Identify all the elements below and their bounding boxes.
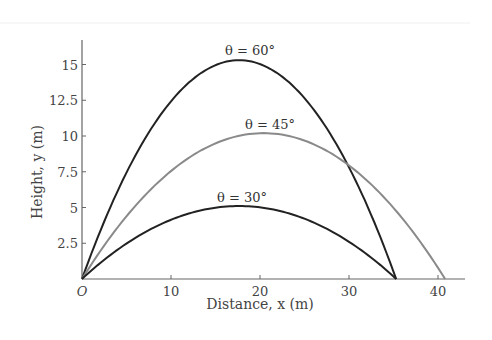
y-tick-label: 7.5	[57, 165, 78, 180]
x-tick-label: 10	[163, 284, 180, 299]
y-tick-label: 10	[61, 129, 78, 144]
curve-label: θ = 60°	[225, 43, 275, 58]
curve-labels: θ = 60°θ = 45°θ = 30°	[217, 43, 295, 205]
curve-label: θ = 45°	[245, 117, 295, 132]
axes: O102030402.557.51012.515	[49, 40, 465, 299]
y-axis-title: Height, y (m)	[29, 125, 45, 219]
projectile-chart: O102030402.557.51012.515 θ = 60°θ = 45°θ…	[0, 0, 492, 340]
y-tick-label: 2.5	[57, 236, 78, 251]
x-tick-label: O	[77, 284, 88, 299]
x-tick-label: 40	[430, 284, 447, 299]
x-tick-label: 30	[341, 284, 358, 299]
curves	[82, 60, 445, 279]
x-axis-title: Distance, x (m)	[206, 296, 313, 312]
curve-60deg	[82, 60, 396, 279]
y-tick-label: 5	[70, 201, 78, 216]
curve-label: θ = 30°	[217, 190, 267, 205]
y-tick-label: 12.5	[49, 93, 78, 108]
y-tick-label: 15	[61, 58, 78, 73]
curve-30deg	[82, 206, 396, 279]
